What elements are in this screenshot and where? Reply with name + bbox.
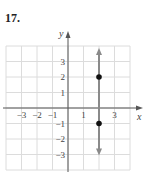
- x-axis-label: x: [136, 111, 142, 122]
- y-tick-label: 1: [61, 88, 66, 98]
- coordinate-plane: xy−3−2−113321−1−2−3: [0, 0, 145, 174]
- x-tick-label: 3: [112, 110, 117, 120]
- line-arrow-up-icon: [96, 48, 102, 55]
- x-tick-label: 1: [81, 110, 86, 120]
- x-tick-label: −2: [32, 110, 42, 120]
- y-axis-label: y: [58, 28, 64, 39]
- plotted-point: [96, 74, 102, 80]
- y-tick-label: 2: [61, 72, 66, 82]
- y-tick-label: −1: [55, 119, 65, 129]
- y-tick-label: −3: [55, 150, 65, 160]
- x-axis-arrow-icon: [136, 106, 143, 111]
- y-tick-label: −2: [55, 134, 65, 144]
- x-tick-label: −3: [17, 110, 27, 120]
- plotted-point: [96, 121, 102, 127]
- y-tick-label: 3: [61, 57, 66, 67]
- y-axis-arrow-icon: [66, 31, 71, 38]
